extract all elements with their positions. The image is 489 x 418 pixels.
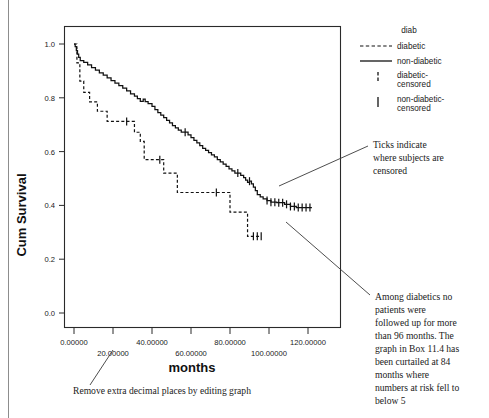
- followup-note: Among diabetics no patients were followe…: [375, 291, 459, 406]
- ticks-note-line-3: censored: [373, 165, 407, 176]
- followup-note-line-8: numbers at risk fell to: [375, 382, 459, 393]
- x-tick-labels-upper: 0.00000 40.00000 80.00000 120.00000: [60, 338, 326, 347]
- y-tick-label-1: 0.2: [44, 255, 55, 264]
- followup-note-line-9: below 5: [375, 395, 406, 406]
- legend-label-non-diabetic-censored-line2: censored: [397, 104, 431, 113]
- x-tick-label-80: 80.00000: [214, 338, 246, 347]
- curve-non-diabetic: [74, 44, 312, 208]
- ticks-note-line-1: Ticks indicate: [373, 139, 427, 150]
- followup-note-line-6: been curtailed at 84: [375, 356, 451, 367]
- x-tick-label-0: 0.00000: [60, 338, 87, 347]
- ticks-note-line-2: where subjects are: [373, 152, 444, 163]
- legend-label-diabetic-censored-line1: diabetic-: [397, 71, 428, 80]
- decimals-note: Remove extra decimal places by editing g…: [73, 385, 251, 396]
- legend-label-non-diabetic: non-diabetic: [397, 57, 442, 66]
- survival-curves: [74, 44, 312, 240]
- x-tick-labels-lower: 20.00000 60.00000 100.00000: [97, 349, 287, 358]
- legend-label-diabetic-censored-line2: censored: [397, 80, 431, 89]
- legend: diab diabetic non-diabetic diabetic- cen…: [360, 26, 445, 113]
- x-tick-label-120: 120.00000: [290, 338, 326, 347]
- y-tick-label-5: 1.0: [44, 40, 55, 49]
- ticks-note: Ticks indicate where subjects are censor…: [373, 139, 444, 176]
- y-axis-ticks: [59, 44, 65, 313]
- legend-label-non-diabetic-censored-line1: non-diabetic-: [397, 95, 445, 104]
- leader-line-ticks-note: [279, 146, 368, 186]
- y-tick-label-0: 0.0: [44, 309, 55, 318]
- followup-note-line-7: months where: [375, 369, 429, 380]
- y-tick-label-2: 0.4: [44, 201, 55, 210]
- x-tick-label-60: 60.00000: [175, 349, 207, 358]
- leader-line-followup-note: [286, 222, 370, 295]
- x-axis-ticks: [74, 328, 308, 335]
- y-axis-title: Cum Survival: [14, 173, 29, 256]
- survival-chart: 0.0 0.2 0.4 0.6 0.8 1.0 Cum Survival 0.0…: [0, 0, 489, 418]
- y-tick-label-4: 0.8: [44, 94, 55, 103]
- legend-title: diab: [401, 26, 417, 35]
- followup-note-line-4: than 96 months. The: [375, 330, 454, 341]
- y-tick-label-3: 0.6: [44, 148, 55, 157]
- x-tick-label-100: 100.00000: [251, 349, 287, 358]
- followup-note-line-1: Among diabetics no: [375, 291, 452, 302]
- followup-note-line-5: graph in Box 11.4 has: [375, 343, 459, 354]
- x-tick-label-40: 40.00000: [136, 338, 168, 347]
- x-axis-title: months: [169, 360, 216, 375]
- legend-label-diabetic: diabetic: [397, 42, 425, 51]
- y-tick-labels: 0.0 0.2 0.4 0.6 0.8 1.0: [44, 40, 55, 318]
- figure-page: 0.0 0.2 0.4 0.6 0.8 1.0 Cum Survival 0.0…: [0, 0, 489, 418]
- followup-note-line-2: patients were: [375, 304, 426, 315]
- followup-note-line-3: followed up for more: [375, 317, 457, 328]
